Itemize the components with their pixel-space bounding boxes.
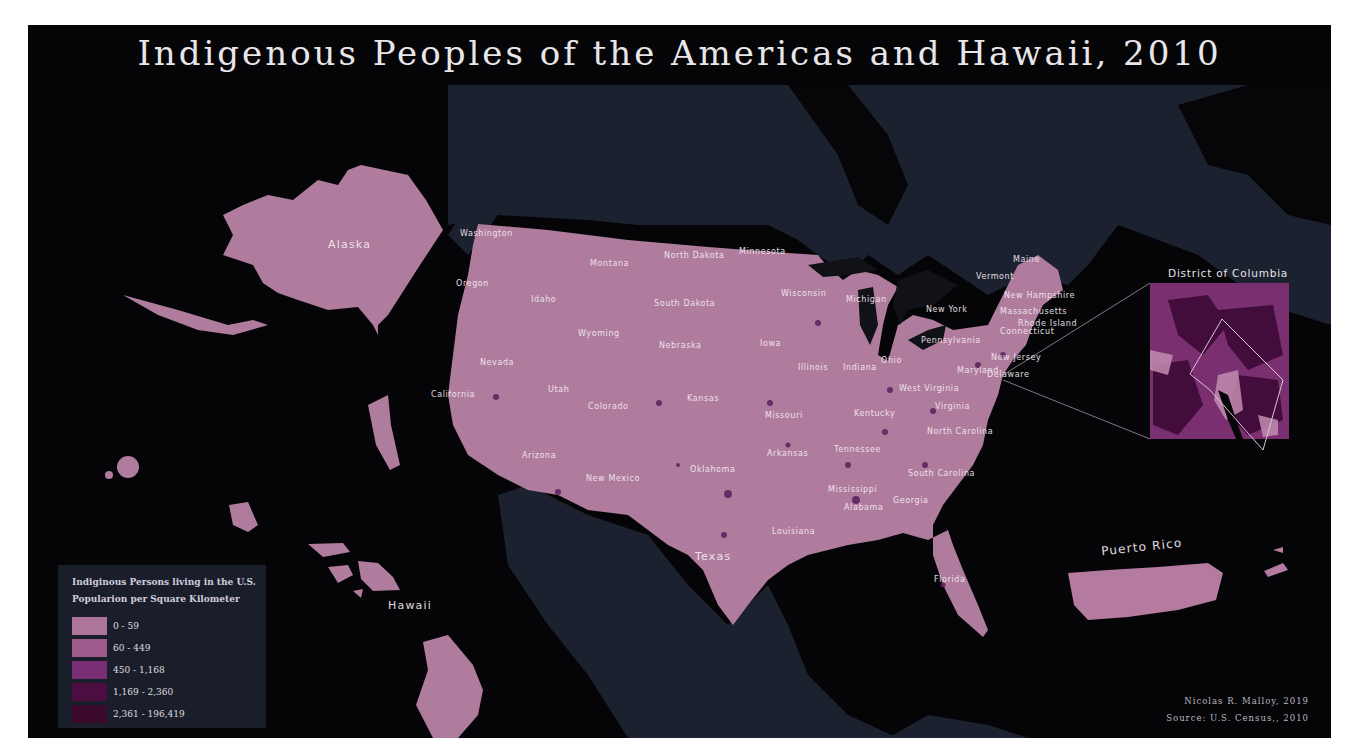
legend-swatch: [72, 661, 107, 679]
state-label-idaho: Idaho: [531, 295, 556, 304]
state-label-new-mexico: New Mexico: [586, 474, 640, 483]
legend-title-line1: Indiginous Persons living in the U.S.: [72, 577, 256, 587]
state-label-nebraska: Nebraska: [659, 341, 702, 350]
alaska-panhandle: [368, 395, 400, 470]
map-frame: Indigenous Peoples of the Americas and H…: [28, 25, 1331, 738]
state-label-illinois: Illinois: [798, 363, 828, 372]
label-hawaii: Hawaii: [388, 599, 432, 612]
state-label-new-york: New York: [926, 305, 967, 314]
state-label-montana: Montana: [590, 259, 629, 268]
credit-source: Source: U.S. Census,, 2010: [1166, 713, 1309, 723]
legend-label: 0 - 59: [113, 621, 139, 631]
legend-title-line2: Popularion per Square Kilometer: [72, 594, 240, 604]
legend-label: 1,169 - 2,360: [113, 687, 173, 697]
state-label-pennsylvania: Pennsylvania: [921, 336, 981, 345]
state-label-minnesota: Minnesota: [739, 247, 786, 256]
state-label-louisiana: Louisiana: [772, 527, 815, 536]
legend-swatch: [72, 617, 107, 635]
legend-item: 0 - 59: [72, 617, 139, 635]
map-title: Indigenous Peoples of the Americas and H…: [28, 33, 1331, 73]
state-label-mississippi: Mississippi: [828, 485, 877, 494]
legend-label: 60 - 449: [113, 643, 150, 653]
legend: Indiginous Persons living in the U.S. Po…: [58, 565, 266, 728]
legend-swatch: [72, 705, 107, 723]
state-label-alabama: Alabama: [844, 503, 883, 512]
legend-label: 2,361 - 196,419: [113, 709, 185, 719]
state-label-new-hampshire: New Hampshire: [1004, 291, 1075, 300]
state-label-connecticut: Connecticut: [1000, 327, 1055, 336]
legend-item: 450 - 1,168: [72, 661, 165, 679]
state-label-north-dakota: North Dakota: [664, 251, 724, 260]
state-label-new-jersey: New Jersey: [991, 353, 1041, 362]
state-label-rhode-island: Rhode Island: [1018, 319, 1077, 328]
state-label-south-dakota: South Dakota: [654, 299, 715, 308]
state-label-missouri: Missouri: [765, 411, 803, 420]
legend-item: 1,169 - 2,360: [72, 683, 173, 701]
state-label-kansas: Kansas: [687, 394, 719, 403]
state-label-michigan: Michigan: [846, 295, 887, 304]
state-label-virginia: Virginia: [935, 402, 970, 411]
state-label-georgia: Georgia: [893, 496, 929, 505]
state-label-iowa: Iowa: [760, 339, 781, 348]
legend-item: 60 - 449: [72, 639, 150, 657]
hawaii-shape: [229, 502, 483, 738]
legend-swatch: [72, 683, 107, 701]
state-label-maine: Maine: [1013, 255, 1040, 264]
label-alaska: Alaska: [328, 238, 371, 251]
state-label-indiana: Indiana: [843, 363, 877, 372]
label-texas: Texas: [695, 550, 731, 563]
state-label-colorado: Colorado: [588, 402, 629, 411]
state-label-arizona: Arizona: [522, 451, 556, 460]
state-label-ohio: Ohio: [881, 356, 902, 365]
state-label-california: California: [431, 390, 475, 399]
state-label-wyoming: Wyoming: [578, 329, 620, 338]
state-label-nevada: Nevada: [480, 358, 514, 367]
state-label-west-virginia: West Virginia: [899, 384, 959, 393]
dc-inset-title: District of Columbia: [1168, 267, 1288, 279]
state-label-utah: Utah: [548, 385, 569, 394]
legend-swatch: [72, 639, 107, 657]
credit-author: Nicolas R. Malloy, 2019: [1184, 696, 1309, 706]
cut-off-caption: [40, 745, 1320, 756]
state-label-tennessee: Tennessee: [834, 445, 881, 454]
state-label-vermont: Vermont: [976, 272, 1014, 281]
state-label-north-carolina: North Carolina: [927, 427, 993, 436]
state-label-florida: Florida: [934, 575, 965, 584]
legend-label: 450 - 1,168: [113, 665, 165, 675]
state-label-arkansas: Arkansas: [767, 449, 808, 458]
state-label-washington: Washington: [460, 229, 513, 238]
state-label-wisconsin: Wisconsin: [781, 289, 826, 298]
state-label-oregon: Oregon: [456, 279, 489, 288]
puerto-rico-shape: [1068, 563, 1223, 620]
state-label-oklahoma: Oklahoma: [690, 465, 736, 474]
state-label-south-carolina: South Carolina: [908, 469, 975, 478]
state-label-delaware: Delaware: [987, 370, 1030, 379]
state-label-kentucky: Kentucky: [854, 409, 895, 418]
legend-item: 2,361 - 196,419: [72, 705, 185, 723]
state-label-massachusetts: Massachusetts: [1000, 307, 1067, 316]
